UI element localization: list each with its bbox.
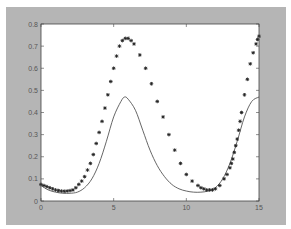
data-marker (234, 144, 238, 148)
data-marker (118, 44, 122, 48)
data-marker (235, 137, 239, 141)
data-marker (246, 78, 250, 82)
data-marker (80, 179, 84, 183)
y-tick-label: 0.3 (28, 131, 38, 138)
data-marker (155, 100, 159, 104)
data-marker (167, 133, 171, 137)
x-tick-label: 10 (182, 204, 190, 211)
data-marker (74, 186, 78, 190)
y-tick-label: 0.5 (28, 87, 38, 94)
data-marker (150, 82, 154, 86)
data-marker (222, 177, 226, 181)
data-marker (121, 39, 125, 43)
data-marker (109, 80, 113, 84)
x-tick-label: 5 (112, 204, 116, 211)
data-marker (106, 93, 110, 97)
data-marker (228, 166, 232, 170)
data-marker (214, 187, 218, 191)
y-tick-label: 0 (34, 198, 38, 205)
data-marker (129, 39, 133, 43)
data-marker (144, 66, 148, 70)
y-tick-label: 0.6 (28, 65, 38, 72)
data-marker (238, 120, 242, 124)
data-marker (185, 173, 189, 177)
y-tick-label: 0.8 (28, 21, 38, 28)
data-marker (97, 131, 101, 135)
data-marker (231, 157, 235, 161)
data-marker (77, 183, 81, 187)
data-marker (161, 115, 165, 119)
x-tick-label: 15 (255, 204, 263, 211)
data-marker (94, 142, 98, 146)
data-marker (254, 42, 258, 46)
data-marker (190, 179, 194, 183)
y-tick-label: 0.4 (28, 109, 38, 116)
data-marker (225, 173, 229, 177)
data-marker (218, 184, 222, 188)
data-marker (86, 168, 90, 172)
y-tick-label: 0.7 (28, 43, 38, 50)
data-marker (251, 51, 255, 55)
data-marker (232, 151, 236, 155)
data-marker (243, 93, 247, 97)
data-marker (83, 175, 87, 179)
data-marker (126, 37, 130, 41)
data-marker (230, 162, 234, 166)
y-tick-label: 0.2 (28, 153, 38, 160)
data-marker (68, 189, 72, 193)
data-marker (132, 42, 136, 46)
data-marker (138, 53, 142, 57)
x-tick-label: 0 (39, 204, 43, 211)
data-marker (240, 111, 244, 115)
data-marker (54, 188, 58, 192)
data-marker (237, 128, 241, 132)
y-tick-label: 0.1 (28, 175, 38, 182)
data-marker (173, 148, 177, 152)
data-marker (71, 188, 75, 192)
data-marker (89, 162, 93, 166)
data-marker (92, 153, 96, 157)
data-marker (112, 66, 116, 70)
data-marker (103, 106, 107, 110)
chart-figure: 00.10.20.30.40.50.60.70.8 051015 (0, 0, 291, 229)
data-marker (179, 162, 183, 166)
data-marker (196, 184, 200, 188)
data-marker (248, 62, 252, 66)
data-marker (115, 54, 119, 58)
y-axis-tick-labels: 00.10.20.30.40.50.60.70.8 (28, 21, 38, 205)
data-marker (100, 120, 104, 124)
